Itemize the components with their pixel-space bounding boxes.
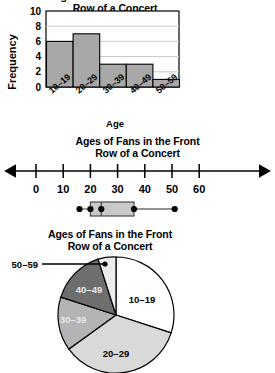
boxplot-point-median bbox=[98, 206, 104, 212]
pie-title-line1: Ages of Fans in the Front bbox=[0, 228, 220, 240]
boxplot-point-q1 bbox=[87, 206, 93, 212]
boxplot-title: Ages of Fans in the Front Row of a Conce… bbox=[0, 135, 275, 159]
pie-callout-label: 50–59 bbox=[12, 259, 38, 270]
boxplot-panel: Ages of Fans in the Front Row of a Conce… bbox=[0, 131, 275, 230]
boxplot-svg: 0 10 20 30 40 50 60 bbox=[0, 159, 275, 223]
pie-label-10-19: 10–19 bbox=[129, 294, 155, 305]
boxplot-tick-label-10: 10 bbox=[57, 183, 69, 195]
boxplot-tick-label-20: 20 bbox=[84, 183, 96, 195]
pie-callout-dot bbox=[102, 261, 107, 266]
boxplot-tick-label-60: 60 bbox=[193, 183, 205, 195]
boxplot-title-line2: Row of a Concert bbox=[0, 147, 275, 159]
boxplot-tick-labels: 0 10 20 30 40 50 60 bbox=[33, 183, 205, 195]
histogram-x-axis-label: Age bbox=[0, 118, 230, 129]
boxplot-point-min bbox=[76, 206, 82, 212]
pie-label-40-49: 40–49 bbox=[76, 284, 102, 295]
boxplot-tick-label-40: 40 bbox=[139, 183, 151, 195]
svg-text:8: 8 bbox=[35, 21, 41, 32]
histogram-panel: Ages of Fans in the Front Row of a Conce… bbox=[0, 0, 275, 131]
histogram-y-ticks: 0 2 4 6 8 10 bbox=[30, 6, 42, 93]
worksheet-figure-page: Ages of Fans in the Front Row of a Conce… bbox=[0, 0, 275, 373]
boxplot-tick-label-50: 50 bbox=[166, 183, 178, 195]
boxplot-point-q3 bbox=[131, 206, 137, 212]
pie-svg: 10–19 20–29 30–39 40–49 50–59 bbox=[0, 252, 275, 373]
pie-panel: Ages of Fans in the Front Row of a Conce… bbox=[0, 228, 275, 373]
boxplot-tick-label-30: 30 bbox=[111, 183, 123, 195]
svg-text:6: 6 bbox=[35, 36, 41, 47]
pie-label-20-29: 20–29 bbox=[103, 348, 129, 359]
svg-text:4: 4 bbox=[35, 51, 41, 62]
svg-text:2: 2 bbox=[35, 66, 41, 77]
pie-title: Ages of Fans in the Front Row of a Conce… bbox=[0, 228, 220, 252]
pie-title-line2: Row of a Concert bbox=[0, 240, 220, 252]
svg-text:0: 0 bbox=[35, 82, 41, 93]
boxplot-box bbox=[90, 202, 134, 216]
histogram-y-axis-label: Frequency bbox=[6, 33, 18, 90]
histogram-svg: Frequency 0 2 4 6 8 10 bbox=[0, 0, 240, 118]
boxplot-point-max bbox=[172, 206, 178, 212]
boxplot-tick-label-0: 0 bbox=[33, 183, 39, 195]
pie-label-30-39: 30–39 bbox=[60, 314, 86, 325]
svg-text:10: 10 bbox=[30, 6, 42, 17]
boxplot-title-line1: Ages of Fans in the Front bbox=[0, 135, 275, 147]
